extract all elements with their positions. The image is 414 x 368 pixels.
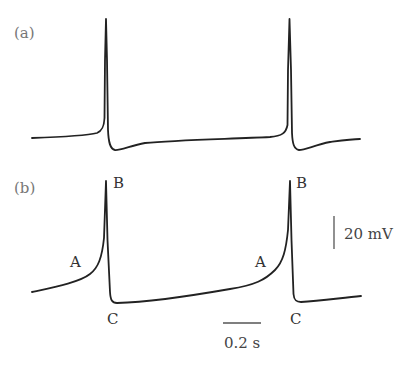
point-label-c1: C [107, 310, 118, 328]
panel-a-label: (a) [14, 24, 35, 42]
panel-b-trace [32, 181, 361, 303]
figure-canvas: (a) (b) A B C A B C 20 mV 0.2 s [0, 0, 414, 368]
voltage-scale-label: 20 mV [344, 225, 394, 243]
membrane-potential-figure: (a) (b) A B C A B C 20 mV 0.2 s [0, 0, 414, 368]
point-label-b2: B [296, 174, 307, 192]
point-label-b1: B [113, 174, 124, 192]
voltage-scale-bar: 20 mV [334, 216, 394, 249]
time-scale-bar: 0.2 s [223, 323, 261, 352]
point-label-a2: A [254, 253, 266, 271]
time-scale-label: 0.2 s [224, 334, 260, 352]
panel-a: (a) [14, 19, 360, 150]
point-label-a1: A [69, 253, 81, 271]
panel-b: (b) A B C A B C [14, 174, 361, 328]
point-label-c2: C [290, 310, 301, 328]
panel-a-trace [32, 19, 360, 150]
panel-b-label: (b) [14, 179, 35, 197]
